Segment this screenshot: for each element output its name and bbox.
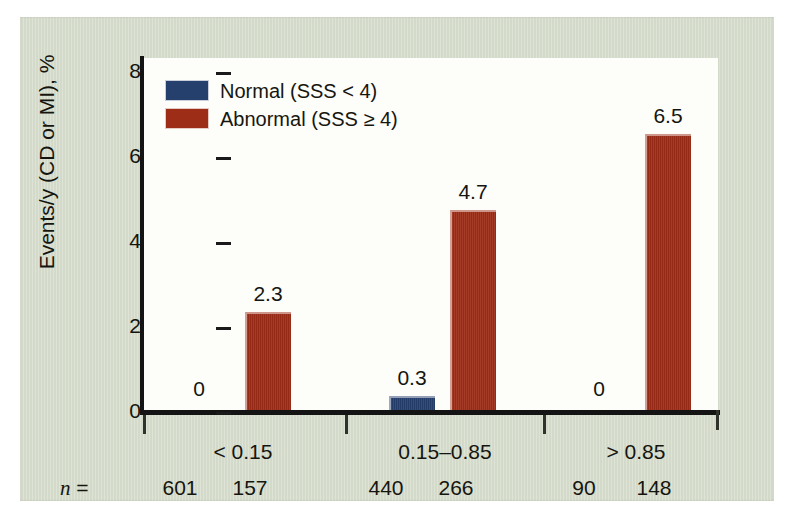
legend-swatch-abnormal [165,108,209,129]
value-label-g2-abnormal: 4.7 [450,181,496,202]
legend-label-normal: Normal (SSS < 4) [220,81,377,101]
bar-g2-abnormal [450,210,496,410]
n-italic-letter: n [60,476,71,500]
legend-item-normal: Normal (SSS < 4) [165,78,398,103]
y-tick-label-2: 2 [111,315,141,336]
y-tick-mark-6 [216,157,231,160]
legend-swatch-normal [165,80,209,101]
y-tick-label-0: 0 [111,400,141,421]
n-value-g3-normal: 90 [556,476,612,500]
value-label-g1-abnormal: 2.3 [245,283,291,304]
bar-g2-normal [389,396,435,410]
value-label-g2-normal: 0.3 [389,367,435,388]
n-row-label: n = [60,476,89,501]
bar-texture [452,212,496,410]
n-value-g1-normal: 601 [152,476,208,500]
n-value-g1-abnormal: 157 [222,476,278,500]
x-axis-tick-sep-2 [543,415,546,434]
value-label-g3-abnormal: 6.5 [645,105,691,126]
x-axis-end-tick [716,410,719,430]
value-label-g3-normal: 0 [576,378,622,399]
legend: Normal (SSS < 4) Abnormal (SSS ≥ 4) [165,78,398,134]
bar-texture [391,398,435,410]
value-label-g1-normal: 0 [176,378,222,399]
y-tick-label-4: 4 [111,230,141,251]
n-value-g3-abnormal: 148 [626,476,682,500]
bar-g3-abnormal [645,134,691,410]
y-tick-mark-4 [216,242,231,245]
x-axis-tick-start [143,415,146,434]
y-tick-mark-0 [216,412,231,415]
legend-label-abnormal: Abnormal (SSS ≥ 4) [220,109,398,129]
legend-item-abnormal: Abnormal (SSS ≥ 4) [165,106,398,131]
bar-g1-abnormal [245,312,291,410]
n-value-g2-normal: 440 [358,476,414,500]
x-axis-tick-sep-1 [345,415,348,434]
figure-container: Events/y (CD or MI), % 8 6 4 2 0 Normal … [0,0,794,520]
n-value-g2-abnormal: 266 [428,476,484,500]
x-category-label-1: < 0.15 [158,440,328,464]
y-tick-mark-2 [216,327,231,330]
x-category-label-3: > 0.85 [556,440,716,464]
y-tick-mark-8 [216,72,231,75]
y-axis-label: Events/y (CD or MI), % [35,7,59,317]
x-category-label-2: 0.15–0.85 [355,440,535,464]
y-tick-label-6: 6 [111,145,141,166]
bar-texture [647,136,691,410]
bar-texture [247,314,291,410]
y-tick-label-8: 8 [111,60,141,81]
